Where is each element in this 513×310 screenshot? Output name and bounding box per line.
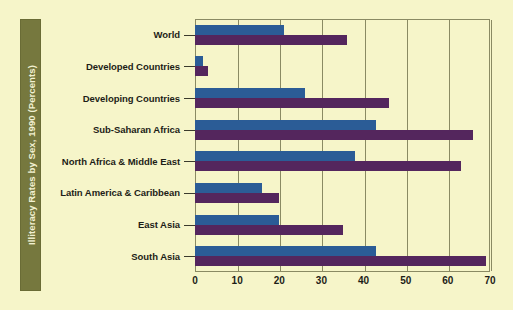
category-label: World <box>154 29 181 40</box>
category-label-row: Developed Countries <box>46 59 195 73</box>
category-label-row: Latin America & Caribbean <box>46 186 195 200</box>
category-tick-mark <box>184 35 195 36</box>
bar-male-developing-countries <box>195 88 305 98</box>
chart-screenshot: Illiteracy Rates by Sex, 1990 (Percents)… <box>0 0 513 310</box>
bar-female-east-asia <box>195 225 343 235</box>
value-axis-labels: 010203040506070 <box>195 275 490 291</box>
category-label: South Asia <box>131 251 180 262</box>
chart-title: Illiteracy Rates by Sex, 1990 (Percents) <box>25 65 36 245</box>
gridline-70 <box>491 20 492 271</box>
category-label-row: South Asia <box>46 249 195 263</box>
bar-female-north-africa-middle-east <box>195 161 461 171</box>
category-label: Developed Countries <box>86 61 180 72</box>
category-label: Developing Countries <box>83 93 180 104</box>
bar-male-east-asia <box>195 215 279 225</box>
bar-female-sub-saharan-africa <box>195 130 473 140</box>
category-label: Sub-Saharan Africa <box>93 124 180 135</box>
bar-male-south-asia <box>195 246 376 256</box>
category-label-row: East Asia <box>46 218 195 232</box>
bar-female-latin-america-caribbean <box>195 193 279 203</box>
category-label: North Africa & Middle East <box>62 156 180 167</box>
bar-male-latin-america-caribbean <box>195 183 262 193</box>
bar-female-developing-countries <box>195 98 389 108</box>
x-tick-label-20: 20 <box>274 275 285 286</box>
x-tick-label-60: 60 <box>442 275 453 286</box>
bar-female-world <box>195 35 347 45</box>
x-tick-label-0: 0 <box>192 275 198 286</box>
bar-male-developed-countries <box>195 56 203 66</box>
category-label-row: Developing Countries <box>46 91 195 105</box>
bar-male-sub-saharan-africa <box>195 120 376 130</box>
x-tick-label-10: 10 <box>232 275 243 286</box>
category-tick-mark <box>184 66 195 67</box>
category-tick-mark <box>184 193 195 194</box>
category-tick-mark <box>184 225 195 226</box>
x-tick-label-70: 70 <box>484 275 495 286</box>
category-label: East Asia <box>138 219 180 230</box>
x-tick-label-30: 30 <box>316 275 327 286</box>
category-label-row: North Africa & Middle East <box>46 154 195 168</box>
x-tick-label-50: 50 <box>400 275 411 286</box>
category-tick-mark <box>184 161 195 162</box>
bar-female-developed-countries <box>195 66 208 76</box>
category-tick-mark <box>184 130 195 131</box>
chart-title-band: Illiteracy Rates by Sex, 1990 (Percents) <box>20 19 41 291</box>
category-tick-mark <box>184 256 195 257</box>
category-label-row: Sub-Saharan Africa <box>46 123 195 137</box>
category-tick-mark <box>184 98 195 99</box>
bar-male-north-africa-middle-east <box>195 151 355 161</box>
bar-female-south-asia <box>195 256 486 266</box>
category-label-row: World <box>46 28 195 42</box>
category-axis-labels: WorldDeveloped CountriesDeveloping Count… <box>46 19 195 272</box>
x-tick-label-40: 40 <box>358 275 369 286</box>
bar-male-world <box>195 25 284 35</box>
category-label: Latin America & Caribbean <box>60 187 180 198</box>
bars-layer <box>195 19 490 272</box>
